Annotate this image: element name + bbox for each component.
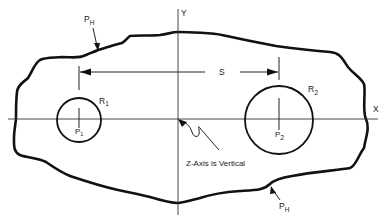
arrowhead-left [80,69,91,76]
spacing-dimension: S [79,57,279,90]
boundary-label-bottom: PH [270,186,290,213]
pipe-1-radius-sub: 1 [105,100,109,107]
boundary-label-bottom-text: PH [279,201,290,213]
pipe-1-point-sub: 1 [80,131,83,137]
pipe-2-point-label: P2 [275,130,284,141]
boundary-arrowhead-bottom [270,186,276,194]
arrowhead-right [267,69,278,76]
diagram-canvas: Y X S R1 P1 R2 P2 Z-Axis is V [0,0,392,223]
boundary-label-bottom-sub: H [285,206,290,213]
boundary-outline [14,32,368,203]
z-axis-leader [180,121,219,150]
pipe-1-radius-label: R1 [99,96,109,107]
pipe-1-point-label: P1 [75,127,83,137]
boundary-label-top-sub: H [90,19,95,26]
boundary-label-top: PH [84,14,100,51]
pipe-2-radius-sub: 2 [314,89,318,96]
y-axis-label: Y [181,8,187,18]
spacing-label: S [219,67,225,77]
z-axis-indicator: Z-Axis is Vertical [178,119,245,168]
z-axis-note: Z-Axis is Vertical [186,159,245,168]
z-axis-arrowhead [178,119,187,127]
pipe-2-point-sub: 2 [280,134,284,141]
boundary-label-top-text: PH [84,14,95,26]
x-axis-label: X [373,104,379,114]
pipe-2-radius-label: R2 [308,84,318,96]
